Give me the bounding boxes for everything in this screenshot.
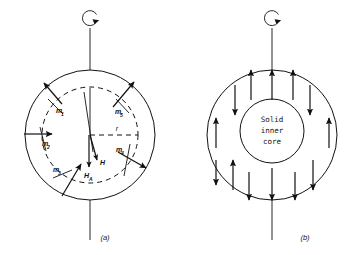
- panel-a-caption: (a): [100, 233, 110, 242]
- dipole-m-5-subscript: 5: [120, 112, 123, 118]
- dipole-m-5: m 5: [113, 82, 134, 118]
- inner-core-label-line-2: inner: [261, 126, 284, 135]
- rotation-arrow-icon-a: [82, 11, 99, 26]
- field-vector-HA-subscript: A: [88, 176, 93, 182]
- dipole-m-4: m 4: [116, 144, 146, 176]
- inner-core-label-line-3: core: [263, 137, 282, 146]
- figure-container: r m 1 m 2 m 3: [0, 0, 363, 255]
- radius-label: r: [116, 125, 119, 132]
- dipole-m-4-subscript: 4: [120, 150, 124, 156]
- inner-core-label-line-1: Solid: [261, 115, 284, 124]
- rotation-arrow-icon-b: [264, 11, 281, 26]
- dipole-m-1: m 1: [44, 83, 64, 117]
- panel-a: r m 1 m 2 m 3: [24, 11, 155, 242]
- dipole-m-2: m 2: [24, 127, 52, 151]
- dipole-m-3-subscript: 3: [58, 170, 61, 176]
- panel-b: Solid inner core: [207, 11, 337, 242]
- dipole-m-1-subscript: 1: [61, 111, 64, 117]
- dipole-m-2-subscript: 2: [46, 144, 50, 150]
- panel-b-caption: (b): [300, 233, 310, 242]
- figure-svg: r m 1 m 2 m 3: [0, 0, 363, 255]
- field-vector-H-label: H: [100, 159, 106, 166]
